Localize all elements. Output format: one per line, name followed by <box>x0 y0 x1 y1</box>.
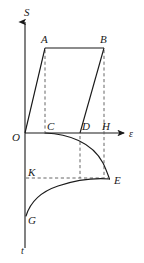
point-label-B: B <box>100 33 107 45</box>
point-label-S: S <box>24 6 30 18</box>
point-label-t: t <box>21 245 24 256</box>
figure-canvas: S A B O C D H ε K E G t <box>0 0 144 263</box>
time-response-curves <box>26 133 110 216</box>
label-group: S A B O C D H ε K E G t <box>12 6 133 256</box>
point-label-D: D <box>81 120 90 132</box>
recovery-curve-GE <box>26 179 110 216</box>
axis-group <box>25 22 124 248</box>
point-label-C: C <box>47 120 55 132</box>
point-label-epsilon: ε <box>129 128 133 139</box>
point-label-H: H <box>101 120 111 132</box>
stress-strain-figure: S A B O C D H ε K E G t <box>0 0 144 263</box>
dashed-construction-lines <box>26 50 108 178</box>
point-label-K: K <box>27 166 36 178</box>
stress-strain-loop <box>25 48 104 133</box>
relaxation-curve-CE <box>45 133 110 179</box>
point-label-G: G <box>28 214 36 226</box>
point-label-O: O <box>12 131 20 143</box>
point-label-A: A <box>40 33 48 45</box>
point-label-E: E <box>113 174 121 186</box>
loading-line-OA <box>25 48 45 133</box>
